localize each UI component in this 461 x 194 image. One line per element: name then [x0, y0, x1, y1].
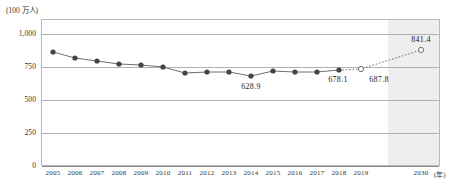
x-tick-label-2016: 2016	[288, 169, 303, 177]
x-tick-label-2007: 2007	[90, 169, 105, 177]
x-tick-label-2018: 2018	[332, 169, 347, 177]
x-tick-label-2030: 2030	[414, 169, 429, 177]
y-tick-label-1000: 1,000	[0, 29, 36, 38]
x-tick-label-2015: 2015	[266, 169, 281, 177]
x-tick-label-2005: 2005	[46, 169, 61, 177]
value-label-2018: 678.1	[328, 75, 348, 84]
x-tick-label-2006: 2006	[68, 169, 83, 177]
gridline-250	[42, 133, 439, 134]
x-tick-label-2014: 2014	[244, 169, 259, 177]
x-tick-label-2013: 2013	[222, 169, 237, 177]
y-tick-label-500: 500	[0, 95, 36, 104]
gridline-750	[42, 67, 439, 68]
x-tick-label-2008: 2008	[112, 169, 127, 177]
x-tick-label-2010: 2010	[156, 169, 171, 177]
x-tick-label-2017: 2017	[310, 169, 325, 177]
value-label-2019: 687.8	[369, 75, 389, 84]
y-tick-label-750: 750	[0, 62, 36, 71]
x-tick-label-2009: 2009	[134, 169, 149, 177]
gridline-1000	[42, 34, 439, 35]
x-tick-label-2012: 2012	[200, 169, 215, 177]
y-axis-title: (100 万人)	[6, 4, 38, 15]
plot-area	[41, 19, 440, 166]
y-tick-label-250: 250	[0, 128, 36, 137]
chart-screenshot: (100 万人) 1,000 750 500 250 0 2005 2006 2…	[0, 0, 461, 194]
x-axis-unit-label: (年)	[434, 169, 446, 179]
value-label-2014: 628.9	[241, 82, 261, 91]
x-tick-label-2019: 2019	[354, 169, 369, 177]
gridline-0	[42, 166, 439, 167]
x-tick-label-2011: 2011	[178, 169, 193, 177]
gridline-500	[42, 100, 439, 101]
value-label-2030: 841.4	[411, 35, 431, 44]
y-tick-label-0: 0	[0, 161, 36, 170]
